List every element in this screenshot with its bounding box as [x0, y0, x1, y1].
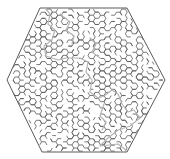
- solution-path: [44, 8, 140, 150]
- hexagonal-maze: [0, 0, 170, 159]
- solution-paths: [44, 8, 140, 150]
- maze-walls: [13, 9, 163, 151]
- maze-wall-segments: [13, 9, 163, 151]
